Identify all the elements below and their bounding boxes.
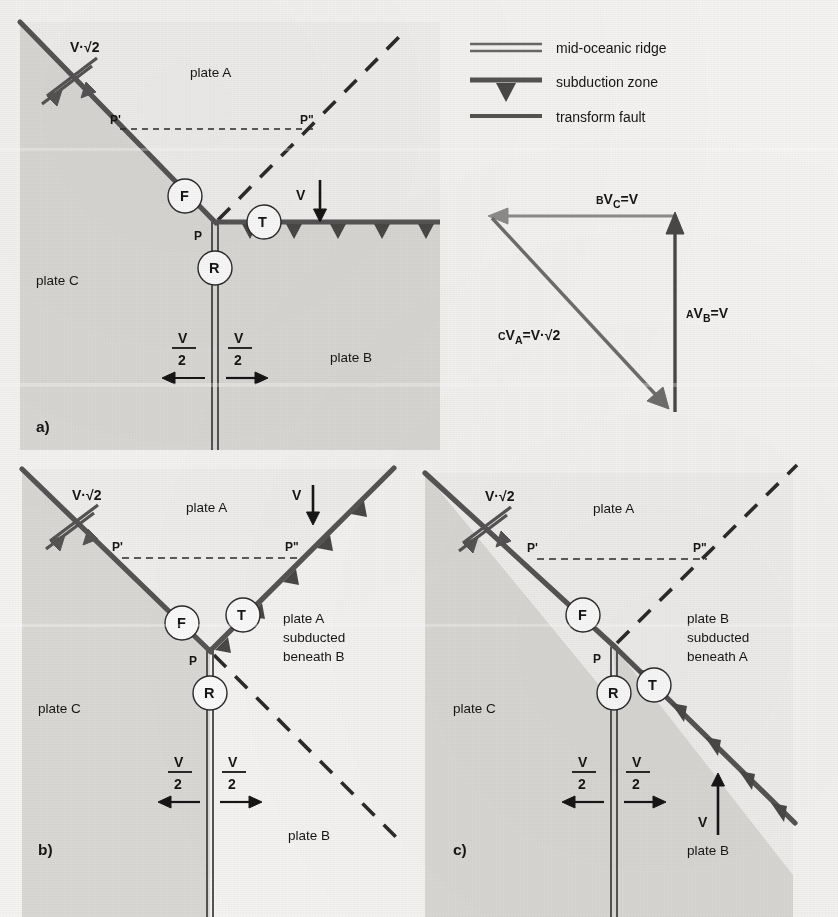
legend-label-transform: transform fault [556,109,646,125]
point-p-double-prime-label: P" [693,541,707,555]
subduction-zone-icon [470,80,542,102]
junction-p-label: P [189,654,197,668]
vector-avb-label: AVB=V [686,305,729,324]
vector-bvc-label: BVC=V [596,191,639,210]
plate-c-label: plate C [36,273,79,288]
trench-junction-label: T [237,607,246,623]
panel-a-tag: a) [36,418,50,435]
plate-c-label: plate C [38,701,81,716]
velocity-v-label: V [698,814,708,830]
trench-junction-label: T [648,677,657,693]
fault-junction-label: F [177,615,186,631]
svg-text:2: 2 [174,776,182,792]
panel-c: V·√2 P' P" F R T P V 2 V 2 [415,455,838,917]
ridge-junction-label: R [209,260,220,276]
plate-b-region [210,651,400,917]
fault-junction-label: F [578,607,587,623]
svg-text:V: V [234,330,244,346]
fault-junction-label: F [180,188,189,204]
velocity-transform-label: V·√2 [72,487,102,503]
plate-c-label: plate C [453,701,496,716]
vector-cva-arrow [492,218,669,409]
legend: mid-oceanic ridge subduction zone transf… [460,28,838,138]
legend-label-ridge: mid-oceanic ridge [556,40,667,56]
point-p-prime-label: P' [112,540,123,554]
half-velocity-right: V 2 [220,754,262,808]
svg-text:2: 2 [632,776,640,792]
svg-text:beneath A: beneath A [687,649,748,664]
plate-a-label: plate A [593,501,634,516]
ridge-junction-label: R [608,685,619,701]
plate-b-label: plate B [330,350,372,365]
velocity-v-label: V [292,487,302,503]
svg-text:2: 2 [178,352,186,368]
vector-bvc-arrow [488,208,674,224]
svg-text:subducted: subducted [283,630,345,645]
junction-p-label: P [194,229,202,243]
mid-oceanic-ridge-icon [470,44,542,51]
legend-label-subduction: subduction zone [556,74,658,90]
plate-a-label: plate A [190,65,231,80]
trench-junction-label: T [258,214,267,230]
velocity-transform-label: V·√2 [485,488,515,504]
svg-text:2: 2 [228,776,236,792]
panel-b: V·√2 P' P" V F T R P V 2 [0,455,420,917]
svg-text:plate A: plate A [283,611,324,626]
plate-a-label: plate A [186,500,227,515]
point-p-prime-label: P' [527,541,538,555]
plate-b-label: plate B [687,843,729,858]
svg-text:V: V [174,754,184,770]
svg-text:plate B: plate B [687,611,729,626]
svg-text:subducted: subducted [687,630,749,645]
vector-avb-arrow [666,212,684,412]
vector-cva-label: CVA=V·√2 [498,327,560,346]
svg-text:2: 2 [578,776,586,792]
svg-text:beneath B: beneath B [283,649,345,664]
svg-text:V: V [228,754,238,770]
svg-text:V: V [178,330,188,346]
plate-b-label: plate B [288,828,330,843]
velocity-triangle: BVC=V AVB=V CVA=V·√2 [470,190,810,420]
point-p-double-prime-label: P" [285,540,299,554]
velocity-v-label: V [296,187,306,203]
panel-c-tag: c) [453,841,467,858]
svg-text:V: V [578,754,588,770]
svg-text:V: V [632,754,642,770]
subduction-note: plate A subducted beneath B [283,611,345,664]
ridge-junction-label: R [204,685,215,701]
point-p-prime-label: P' [110,113,121,127]
panel-b-tag: b) [38,841,53,858]
future-trace-dashed [214,655,398,839]
panel-a: V·√2 P' P" V F T R P V 2 [0,0,440,450]
plate-b-region [215,222,440,450]
velocity-transform-label: V·√2 [70,39,100,55]
junction-p-label: P [593,652,601,666]
svg-text:2: 2 [234,352,242,368]
